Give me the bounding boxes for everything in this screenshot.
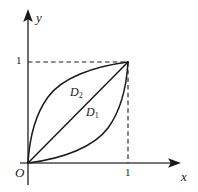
y-tick-label-1: 1 <box>16 55 22 66</box>
region-label-d1-base: D <box>86 105 95 119</box>
region-label-d2-base: D <box>70 85 79 99</box>
y-axis-label: y <box>36 11 42 24</box>
origin-label: O <box>15 166 24 179</box>
x-axis-label: x <box>181 170 187 183</box>
figure-canvas <box>0 0 198 192</box>
math-figure: y x O 1 1 D2 D1 <box>0 0 198 192</box>
diagonal-line <box>28 62 128 163</box>
region-label-d1-subscript: 1 <box>95 111 99 120</box>
region-label-d2-subscript: 2 <box>79 91 83 100</box>
region-label-d2: D2 <box>70 86 83 98</box>
x-tick-label-1: 1 <box>125 167 131 178</box>
region-label-d1: D1 <box>86 106 99 118</box>
